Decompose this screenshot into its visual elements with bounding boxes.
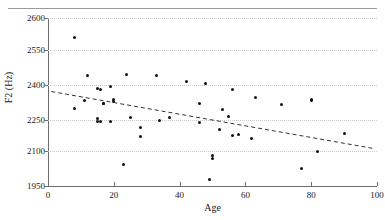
scatter-point	[86, 74, 89, 77]
y-tick-mark	[44, 151, 48, 152]
x-tick-label: 80	[296, 190, 326, 200]
figure-top-rule	[8, 8, 377, 9]
scatter-point	[310, 99, 313, 102]
x-axis-line	[48, 186, 377, 187]
y-tick-label: 2100	[11, 147, 45, 156]
gridline-y	[48, 50, 377, 51]
x-tick-mark	[114, 182, 115, 186]
scatter-point	[198, 102, 201, 105]
x-tick-label: 60	[230, 190, 260, 200]
scatter-point	[221, 108, 224, 111]
x-tick-mark	[311, 182, 312, 186]
scatter-point	[168, 116, 171, 119]
scatter-point	[231, 134, 234, 137]
scatter-point	[83, 99, 86, 102]
y-tick-label: 2600	[11, 14, 45, 23]
scatter-point	[185, 80, 188, 83]
scatter-point	[129, 116, 132, 119]
scatter-point	[316, 150, 319, 153]
x-tick-label: 100	[362, 190, 385, 200]
scatter-point	[109, 120, 112, 123]
scatter-point	[139, 126, 142, 129]
y-tick-label: 2400	[11, 81, 45, 90]
scatter-point	[280, 103, 283, 106]
x-axis-title: Age	[48, 202, 377, 213]
y-tick-mark	[44, 120, 48, 121]
scatter-point	[218, 128, 221, 131]
scatter-point	[99, 88, 102, 91]
y-tick-mark	[44, 186, 48, 187]
scatter-point	[99, 120, 102, 123]
scatter-point	[208, 178, 211, 181]
scatter-point	[109, 85, 112, 88]
x-tick-mark	[48, 182, 49, 186]
scatter-point	[237, 133, 240, 136]
scatter-point	[254, 96, 257, 99]
y-tick-mark	[44, 18, 48, 19]
x-tick-label: 0	[33, 190, 63, 200]
y-tick-label: 2250	[11, 116, 45, 125]
scatter-point	[125, 73, 128, 76]
scatter-point	[112, 100, 115, 103]
y-tick-mark	[44, 85, 48, 86]
scatter-point	[139, 135, 142, 138]
gridline-y	[48, 85, 377, 86]
y-tick-label: 2550	[11, 46, 45, 55]
gridline-y	[48, 18, 377, 19]
x-tick-label: 20	[99, 190, 129, 200]
gridline-y	[48, 151, 377, 152]
scatter-point	[73, 36, 76, 39]
plot-area	[48, 18, 377, 186]
scatter-point	[231, 88, 234, 91]
scatter-point	[155, 74, 158, 77]
scatter-point	[250, 137, 253, 140]
x-tick-mark	[180, 182, 181, 186]
y-tick-mark	[44, 50, 48, 51]
figure-scatter-f2-vs-age: 260025502400225021001950 020406080100 Ag…	[0, 0, 385, 220]
x-tick-mark	[377, 182, 378, 186]
clipped-caption-above-rule	[8, 0, 377, 6]
scatter-point	[122, 163, 125, 166]
scatter-point	[102, 102, 105, 105]
scatter-point	[198, 121, 201, 124]
x-tick-label: 40	[165, 190, 195, 200]
x-tick-mark	[245, 182, 246, 186]
scatter-point	[300, 167, 303, 170]
scatter-point	[73, 107, 76, 110]
scatter-point	[227, 115, 230, 118]
y-axis-title: F2 (Hz)	[3, 58, 14, 118]
scatter-point	[343, 132, 346, 135]
scatter-point	[211, 157, 214, 160]
scatter-point	[158, 119, 161, 122]
